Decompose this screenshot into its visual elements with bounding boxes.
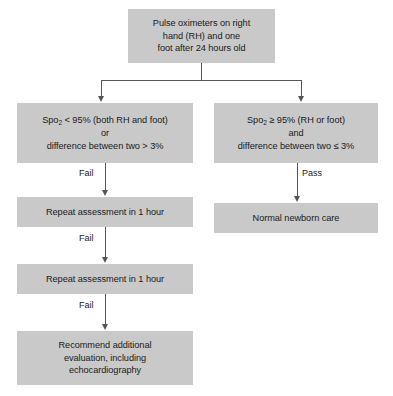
pass-spo2-subscript: 2 xyxy=(263,119,267,126)
connector-fail-2 xyxy=(105,227,106,257)
connector-split-bar xyxy=(101,80,302,81)
fail-spo2-subscript: 2 xyxy=(58,119,62,126)
arrowhead-fail-1 xyxy=(102,190,108,196)
edge-label-fail-1: Fail xyxy=(79,168,94,179)
flowchart-canvas: Pulse oximeters on right hand (RH) and o… xyxy=(0,0,393,396)
arrowhead-fail-2 xyxy=(102,257,108,263)
fail-spo2-suffix: < 95% (both RH and foot) xyxy=(62,115,168,125)
node-start-label: Pulse oximeters on right hand (RH) and o… xyxy=(132,17,271,54)
edge-label-fail-2: Fail xyxy=(79,233,94,244)
fail-difference: difference between two > 3% xyxy=(47,141,164,151)
node-recommend-evaluation: Recommend additional evaluation, includi… xyxy=(17,331,193,385)
node-recommend-label: Recommend additional evaluation, includi… xyxy=(21,339,189,376)
connector-fail-1 xyxy=(105,163,106,190)
connector-fail-3 xyxy=(105,294,106,324)
arrowhead-pass xyxy=(294,196,300,202)
edge-label-fail-3: Fail xyxy=(79,300,94,311)
connector-split-right-drop xyxy=(301,80,302,96)
pass-spo2-prefix: Spo xyxy=(247,115,263,125)
node-fail-criteria-label: Spo2 < 95% (both RH and foot)ordifferenc… xyxy=(21,114,189,152)
arrowhead-to-pass-criteria xyxy=(298,96,304,102)
connector-pass xyxy=(297,163,298,196)
edge-label-pass: Pass xyxy=(302,168,322,179)
node-repeat-1-label: Repeat assessment in 1 hour xyxy=(21,206,189,218)
node-normal-newborn-care: Normal newborn care xyxy=(214,203,378,233)
pass-difference: difference between two ≤ 3% xyxy=(238,141,354,151)
node-repeat-assessment-1: Repeat assessment in 1 hour xyxy=(17,197,193,227)
node-repeat-assessment-2: Repeat assessment in 1 hour xyxy=(17,264,193,294)
node-pass-criteria-label: Spo2 ≥ 95% (RH or foot)anddifference bet… xyxy=(218,114,374,152)
pass-spo2-suffix: ≥ 95% (RH or foot) xyxy=(267,115,345,125)
arrowhead-to-fail-criteria xyxy=(98,96,104,102)
connector-start-stem xyxy=(201,63,202,80)
pass-conjunction: and xyxy=(288,128,303,138)
node-pulse-oximeters-start: Pulse oximeters on right hand (RH) and o… xyxy=(128,9,275,63)
fail-conjunction: or xyxy=(101,128,109,138)
node-pass-criteria: Spo2 ≥ 95% (RH or foot)anddifference bet… xyxy=(214,103,378,163)
fail-spo2-prefix: Spo xyxy=(42,115,58,125)
connector-split-left-drop xyxy=(101,80,102,96)
node-fail-criteria: Spo2 < 95% (both RH and foot)ordifferenc… xyxy=(17,103,193,163)
arrowhead-fail-3 xyxy=(102,324,108,330)
node-repeat-2-label: Repeat assessment in 1 hour xyxy=(21,273,189,285)
node-normal-care-label: Normal newborn care xyxy=(218,212,374,224)
